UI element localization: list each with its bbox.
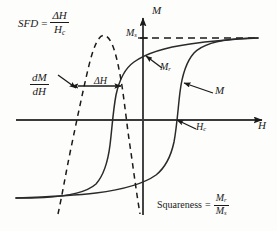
hysteresis-ascending-branch — [16, 38, 258, 198]
squareness-numerator: Mr — [214, 193, 229, 204]
squareness-formula: Squareness = Mr Ms — [157, 193, 229, 218]
dmdh-fraction: dM dH — [30, 72, 49, 97]
delta-h-label: ΔH — [94, 76, 107, 86]
axis-lines — [16, 18, 262, 215]
m-curve-leader-arrow — [184, 83, 213, 93]
m-curve-label: M — [215, 85, 224, 96]
squareness-fraction: Mr Ms — [214, 193, 229, 218]
sfd-equals: = — [41, 18, 47, 29]
squareness-equals: = — [205, 200, 211, 210]
dmdh-leader-arrow — [58, 75, 76, 88]
mr-label: Mr — [160, 62, 171, 73]
squareness-denominator: Ms — [214, 206, 229, 217]
hc-label: Hc — [196, 122, 206, 133]
sfd-fraction: ΔH Hc — [50, 10, 68, 37]
sfd-formula: SFD = ΔH Hc — [18, 10, 69, 37]
m-axis-label: M — [152, 5, 161, 16]
hysteresis-loop-figure: SFD = ΔH Hc dM dH ΔH M H Ms Mr M Hc Squa… — [0, 0, 277, 231]
dmdh-denominator: dH — [31, 86, 48, 98]
dmdh-label: dM dH — [30, 72, 49, 97]
sfd-denominator: Hc — [52, 24, 67, 37]
h-axis-label: H — [258, 120, 266, 131]
sfd-lhs: SFD — [18, 18, 38, 29]
hc-leader-arrow — [177, 120, 196, 129]
ms-label: Ms — [126, 28, 137, 39]
squareness-lhs: Squareness — [157, 200, 202, 210]
dmdh-numerator: dM — [30, 72, 49, 84]
hysteresis-descending-branch — [16, 38, 258, 198]
sfd-numerator: ΔH — [50, 10, 68, 22]
